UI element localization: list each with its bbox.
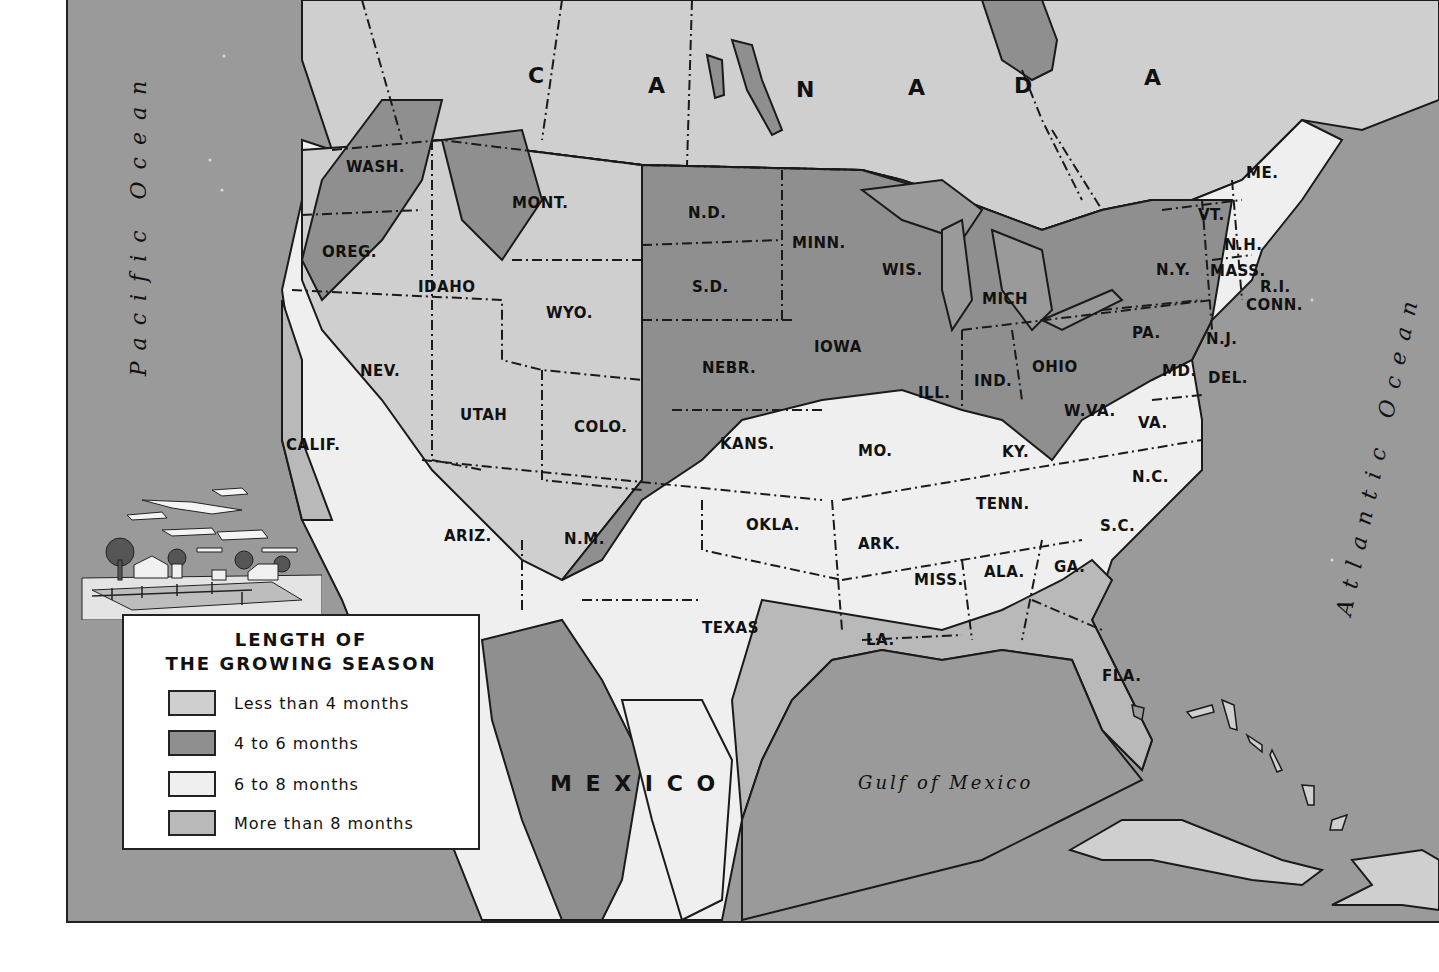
legend-title-line1: LENGTH OF <box>124 628 478 652</box>
pacific-ocean-label: Pacific Ocean <box>126 23 151 423</box>
state-label: GA. <box>1054 558 1085 576</box>
gulf-of-mexico-label: Gulf of Mexico <box>858 772 1033 793</box>
state-label: VA. <box>1138 414 1168 432</box>
swatch-6-to-8 <box>168 771 216 797</box>
state-label: MASS. <box>1210 262 1266 280</box>
legend-item-4-to-6: 4 to 6 months <box>168 728 359 758</box>
canada-letter-a3: A <box>1144 65 1163 90</box>
state-label: UTAH <box>460 406 507 424</box>
bahamas <box>1247 735 1262 752</box>
state-label: IND. <box>974 372 1012 390</box>
state-label: CALIF. <box>286 436 341 454</box>
swatch-less-than-4 <box>168 690 216 716</box>
state-label: LA. <box>866 631 895 649</box>
state-label: CONN. <box>1246 296 1303 314</box>
state-label: KANS. <box>720 435 775 453</box>
state-label: N.J. <box>1206 330 1238 348</box>
swatch-4-to-6 <box>168 730 216 756</box>
state-label: N.H. <box>1224 236 1263 254</box>
state-label: MONT. <box>512 194 568 212</box>
state-label: COLO. <box>574 418 627 436</box>
state-label: MD. <box>1162 362 1197 380</box>
bahamas <box>1270 750 1282 772</box>
state-label: IDAHO <box>418 278 475 296</box>
legend-item-6-to-8: 6 to 8 months <box>168 769 359 799</box>
state-label: S.C. <box>1100 517 1135 535</box>
state-label: WIS. <box>882 261 923 279</box>
state-label: N.Y. <box>1156 261 1190 279</box>
state-label: TEXAS <box>702 619 759 637</box>
canada-letter-d: D <box>1014 73 1034 98</box>
state-label: WASH. <box>346 158 405 176</box>
legend-label: More than 8 months <box>234 814 414 833</box>
state-label: WYO. <box>546 304 593 322</box>
cuba <box>1070 820 1322 885</box>
state-label: KY. <box>1002 443 1029 461</box>
state-label: VT. <box>1198 206 1225 224</box>
state-label: N.M. <box>564 530 605 548</box>
state-label: ME. <box>1246 164 1278 182</box>
state-label: W.VA. <box>1064 402 1116 420</box>
legend-label: 4 to 6 months <box>234 734 359 753</box>
state-label: NEBR. <box>702 359 756 377</box>
state-label: ARIZ. <box>444 527 492 545</box>
state-label: OREG. <box>322 243 377 261</box>
state-label: PA. <box>1132 324 1161 342</box>
state-label: MICH <box>982 290 1028 308</box>
mexico-label: M E X I C O <box>550 771 718 796</box>
canada-letter-a1: A <box>648 73 667 98</box>
state-label: R.I. <box>1260 278 1291 296</box>
legend: LENGTH OF THE GROWING SEASON Less than 4… <box>122 614 480 850</box>
state-label: MINN. <box>792 234 846 252</box>
bahamas <box>1330 815 1347 830</box>
state-label: N.D. <box>688 204 726 222</box>
state-label: NEV. <box>360 362 400 380</box>
legend-item-more-than-8: More than 8 months <box>168 808 414 838</box>
state-label: OHIO <box>1032 358 1078 376</box>
canada-letter-c: C <box>528 63 546 88</box>
state-label: N.C. <box>1132 468 1169 486</box>
state-label: ARK. <box>858 535 900 553</box>
state-label: DEL. <box>1208 369 1248 387</box>
legend-label: Less than 4 months <box>234 694 409 713</box>
legend-title: LENGTH OF THE GROWING SEASON <box>124 628 478 676</box>
legend-item-less-than-4: Less than 4 months <box>168 688 409 718</box>
state-label: S.D. <box>692 278 729 296</box>
hispaniola <box>1332 850 1439 910</box>
state-label: MO. <box>858 442 893 460</box>
state-label: MISS. <box>914 571 964 589</box>
state-label: FLA. <box>1102 667 1141 685</box>
state-label: TENN. <box>976 495 1030 513</box>
bahamas <box>1302 785 1314 805</box>
canada-letter-n: N <box>796 77 816 102</box>
swatch-more-than-8 <box>168 810 216 836</box>
legend-label: 6 to 8 months <box>234 775 359 794</box>
legend-title-line2: THE GROWING SEASON <box>124 652 478 676</box>
state-label: OKLA. <box>746 516 800 534</box>
farm-illustration <box>72 460 322 620</box>
state-label: ALA. <box>984 563 1025 581</box>
state-label: ILL. <box>918 384 950 402</box>
state-label: IOWA <box>814 338 862 356</box>
canada-letter-a2: A <box>908 75 927 100</box>
bahamas <box>1222 700 1237 730</box>
bahamas <box>1187 705 1214 718</box>
